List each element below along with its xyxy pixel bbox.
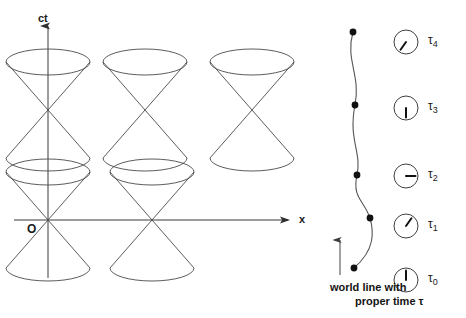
world-line-path (351, 32, 373, 268)
tau-subscript: 3 (433, 105, 438, 115)
axes-group (14, 26, 288, 278)
clock-label-tau3: τ3 (428, 99, 438, 115)
tau-subscript: 0 (433, 277, 438, 287)
clock-tau1 (394, 214, 418, 238)
world-line-event-dot (351, 265, 358, 272)
clock-label-tau0: τ0 (428, 271, 438, 287)
cone-upper-rim (110, 159, 194, 185)
clock-label-tau2: τ2 (428, 167, 438, 183)
cone-lower-rim (210, 158, 294, 171)
cone-upper-rim (103, 49, 187, 75)
world-line-event-dot (350, 29, 357, 36)
clock-hand (406, 218, 411, 226)
origin-label: O (27, 222, 36, 236)
caption-line-2: proper time τ (355, 295, 423, 307)
cone-lower-rim (103, 158, 187, 171)
cone-upper-rim (210, 49, 294, 75)
cone-top-right (210, 49, 294, 171)
tau-subscript: 2 (433, 173, 438, 183)
tau-subscript: 1 (433, 223, 438, 233)
clock-tau3 (394, 96, 418, 120)
clock-hand (401, 42, 406, 50)
cone-top-middle (103, 49, 187, 171)
clock-label-tau1: τ1 (428, 217, 438, 233)
spacetime-diagram-figure: ct x O τ4τ3τ2τ1τ0 world line with proper… (0, 0, 466, 318)
x-axis-label: x (299, 213, 305, 225)
clock-faces-group (394, 30, 418, 292)
world-line-group (340, 29, 373, 275)
caption-line-1: world line with (330, 281, 406, 293)
cone-lower-rim (110, 268, 194, 281)
world-line-event-dot (367, 215, 374, 222)
ct-axis-label: ct (38, 12, 48, 24)
light-cones-group (6, 49, 294, 281)
clock-tau4 (394, 30, 418, 54)
clock-label-tau4: τ4 (428, 33, 438, 49)
world-line-event-dot (354, 172, 361, 179)
clock-tau2 (394, 164, 418, 188)
world-line-event-dot (352, 102, 359, 109)
tau-subscript: 4 (433, 39, 438, 49)
diagram-canvas (0, 0, 466, 318)
